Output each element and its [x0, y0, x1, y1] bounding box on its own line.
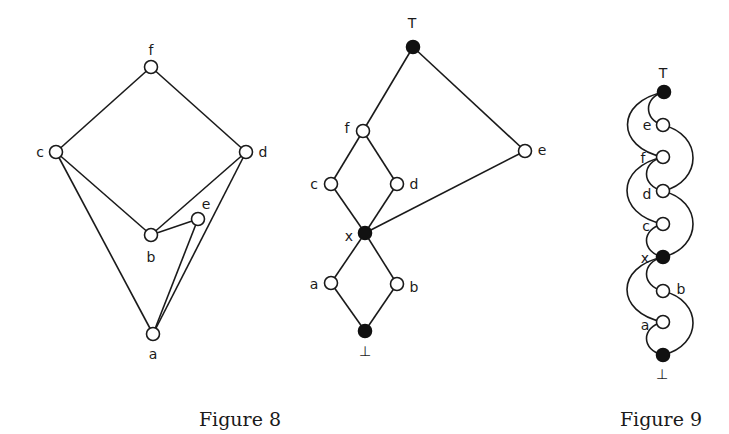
fig8a-edge-b-e: [151, 219, 198, 235]
figure-9-caption: Figure 9: [620, 408, 702, 430]
fig9-node-d: [657, 185, 670, 198]
fig9-label-c: c: [642, 218, 650, 234]
fig9-node-x: [657, 251, 670, 264]
fig8b-node-f: [357, 125, 370, 138]
fig8b-node-b: [391, 278, 404, 291]
captions-layer: Figure 8 Figure 9: [199, 408, 702, 430]
fig8a-label-e: e: [202, 196, 211, 212]
fig8b-edge-f-d: [363, 131, 397, 184]
fig8b-edge-x-b: [365, 233, 397, 284]
fig8b-node-x: [359, 227, 372, 240]
fig9-node-f: [657, 151, 670, 164]
fig8a-node-c: [50, 146, 63, 159]
fig8a-edge-d-a: [153, 152, 246, 334]
fig9-node-b: [657, 285, 670, 298]
fig8a-node-f: [145, 61, 158, 74]
fig8b-node-bottom: [359, 325, 372, 338]
fig9-label-d: d: [643, 186, 652, 202]
fig9-node-c: [657, 218, 670, 231]
fig9-label-bottom: ⊥: [656, 366, 668, 382]
fig8a-edge-c-a: [56, 152, 153, 334]
fig8b-label-b: b: [410, 279, 419, 295]
fig8b-node-top: [407, 41, 420, 54]
fig8a-label-d: d: [259, 144, 268, 160]
fig8b-edge-f-c: [331, 131, 363, 184]
fig8a-edge-e-a: [153, 219, 198, 334]
fig8b-edge-top-e: [413, 47, 525, 151]
fig8b-label-f: f: [345, 120, 351, 136]
fig9-node-bottom: [657, 349, 670, 362]
fig8a-edge-c-b: [56, 152, 151, 235]
fig9-label-b: b: [677, 281, 686, 297]
fig9-node-a: [657, 316, 670, 329]
fig8a-edge-f-c: [56, 67, 151, 152]
fig8a-node-d: [240, 146, 253, 159]
fig9-label-a: a: [641, 317, 650, 333]
fig8b-edge-a-bottom: [331, 283, 365, 331]
fig9-node-e: [657, 119, 670, 132]
fig8b-label-c: c: [310, 176, 318, 192]
fig8b-label-x: x: [345, 228, 353, 244]
fig8b-edge-e-x: [365, 151, 525, 233]
fig8b-node-c: [325, 178, 338, 191]
fig8b-edge-b-bottom: [365, 284, 397, 331]
fig8a-label-c: c: [36, 144, 44, 160]
edges-layer: [56, 47, 693, 355]
fig8b-label-d: d: [410, 176, 419, 192]
fig8a-node-e: [192, 213, 205, 226]
fig8b-edge-top-f: [363, 47, 413, 131]
fig8b-label-a: a: [310, 276, 319, 292]
fig8b-node-a: [325, 277, 338, 290]
fig8b-edge-c-x: [331, 184, 365, 233]
fig9-label-x: x: [641, 250, 649, 266]
fig8b-label-top: T: [407, 15, 417, 31]
fig9-label-e: e: [643, 117, 652, 133]
fig8a-label-f: f: [149, 42, 155, 58]
fig8a-label-a: a: [149, 346, 158, 362]
fig8a-node-a: [147, 328, 160, 341]
fig8b-node-e: [519, 145, 532, 158]
fig8b-label-bottom: ⊥: [359, 343, 371, 359]
fig8a-label-b: b: [147, 249, 156, 265]
fig8b-node-d: [391, 178, 404, 191]
fig9-node-top: [658, 86, 671, 99]
fig8a-node-b: [145, 229, 158, 242]
fig8a-edge-f-d: [151, 67, 246, 152]
fig8b-label-e: e: [538, 142, 547, 158]
figure-8-caption: Figure 8: [199, 408, 281, 430]
fig9-label-top: T: [658, 65, 668, 81]
diagram-canvas: fcdbeaTfecdxab⊥Tefdcxba⊥ Figure 8 Figure…: [0, 0, 729, 434]
